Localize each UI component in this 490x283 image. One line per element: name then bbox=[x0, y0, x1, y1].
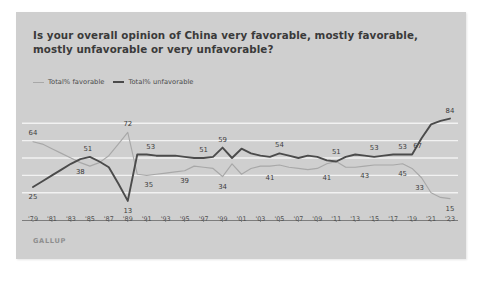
data-point-label: 51 bbox=[83, 145, 92, 153]
data-point-label: 84 bbox=[446, 107, 455, 115]
data-point-label: 41 bbox=[266, 174, 275, 182]
x-tick-label: '17 bbox=[388, 215, 398, 223]
x-tick-label: '07 bbox=[293, 215, 303, 223]
x-tick-label: '79 bbox=[28, 215, 38, 223]
data-point-label: 15 bbox=[446, 205, 455, 213]
x-tick-label: '81 bbox=[47, 215, 57, 223]
x-tick-label: '11 bbox=[331, 215, 341, 223]
data-point-label: 13 bbox=[123, 207, 132, 215]
line-chart-svg bbox=[16, 96, 466, 222]
data-point-label: 25 bbox=[29, 193, 38, 201]
x-tick-label: '89 bbox=[123, 215, 133, 223]
series-line bbox=[33, 132, 450, 198]
data-point-label: 53 bbox=[398, 143, 407, 151]
line-swatch-icon bbox=[33, 82, 44, 83]
x-tick-label: '93 bbox=[161, 215, 171, 223]
data-point-label: 33 bbox=[415, 184, 424, 192]
x-tick-label: '99 bbox=[218, 215, 228, 223]
data-point-label: 51 bbox=[199, 146, 208, 154]
data-point-label: 38 bbox=[76, 168, 85, 176]
data-point-label: 35 bbox=[144, 181, 153, 189]
data-point-label: 67 bbox=[413, 142, 422, 150]
x-tick-label: '83 bbox=[66, 215, 76, 223]
data-point-label: 53 bbox=[146, 143, 155, 151]
data-point-label: 45 bbox=[398, 170, 407, 178]
series-line bbox=[33, 119, 450, 201]
x-axis-tick-labels: '79'81'83'85'87'89'91'93'95'97'99'01'03'… bbox=[16, 215, 466, 231]
data-point-label: 43 bbox=[360, 172, 369, 180]
data-point-label: 51 bbox=[332, 148, 341, 156]
legend-label-favorable: Total% favorable bbox=[48, 78, 104, 86]
x-tick-label: '87 bbox=[104, 215, 114, 223]
chart-legend: Total% favorable Total% unfavorable bbox=[33, 78, 194, 86]
x-tick-label: '95 bbox=[180, 215, 190, 223]
data-point-label: 41 bbox=[322, 174, 331, 182]
x-tick-label: '15 bbox=[369, 215, 379, 223]
x-tick-label: '97 bbox=[199, 215, 209, 223]
data-point-label: 72 bbox=[123, 120, 132, 128]
x-tick-label: '13 bbox=[350, 215, 360, 223]
chart-card: Is your overall opinion of China very fa… bbox=[16, 12, 466, 259]
x-tick-label: '01 bbox=[237, 215, 247, 223]
x-tick-label: '19 bbox=[407, 215, 417, 223]
data-point-label: 59 bbox=[218, 136, 227, 144]
legend-label-unfavorable: Total% unfavorable bbox=[128, 78, 193, 86]
legend-item-unfavorable[interactable]: Total% unfavorable bbox=[113, 78, 193, 86]
data-point-label: 39 bbox=[180, 177, 189, 185]
legend-item-favorable[interactable]: Total% favorable bbox=[33, 78, 104, 86]
x-tick-label: '03 bbox=[256, 215, 266, 223]
chart-title: Is your overall opinion of China very fa… bbox=[33, 28, 433, 56]
x-tick-label: '85 bbox=[85, 215, 95, 223]
x-tick-label: '09 bbox=[312, 215, 322, 223]
x-tick-label: '05 bbox=[274, 215, 284, 223]
data-point-label: 64 bbox=[29, 129, 38, 137]
source-attribution: GALLUP bbox=[33, 237, 66, 245]
line-swatch-icon bbox=[113, 81, 124, 83]
data-point-label: 34 bbox=[218, 183, 227, 191]
x-tick-label: '91 bbox=[142, 215, 152, 223]
data-point-label: 53 bbox=[370, 144, 379, 152]
x-tick-label: '21 bbox=[426, 215, 436, 223]
x-tick-label: '23 bbox=[445, 215, 455, 223]
data-point-label: 54 bbox=[275, 141, 284, 149]
chart-plot-area: 6472353934414143453315253851135351595451… bbox=[16, 96, 466, 222]
